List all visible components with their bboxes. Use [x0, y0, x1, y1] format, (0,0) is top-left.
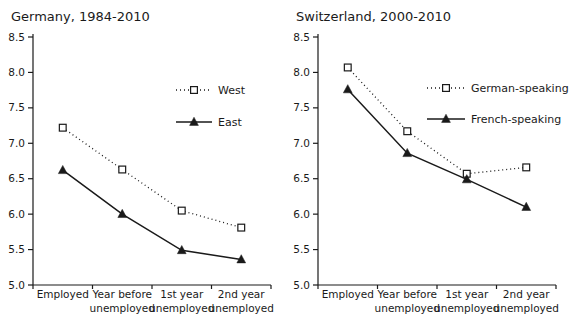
- x-category-label: unemployed: [375, 302, 440, 314]
- legend-marker-german-speaking: [443, 85, 450, 92]
- legend-label-west: West: [218, 84, 246, 97]
- y-tick-label: 6.5: [8, 172, 25, 184]
- x-category-label: 2nd year: [218, 288, 265, 300]
- legend-label-german-speaking: German-speaking: [471, 82, 569, 95]
- y-tick-label: 6.5: [293, 172, 310, 184]
- y-tick-label: 7.0: [293, 137, 310, 149]
- x-category-label: 2nd year: [503, 288, 550, 300]
- data-point-marker-west: [178, 207, 185, 214]
- x-category-label: Employed: [37, 288, 89, 300]
- panel-switzerland: 8.58.07.57.06.56.05.55.0EmployedYear bef…: [285, 0, 569, 329]
- data-point-marker-east: [118, 209, 127, 217]
- x-category-label: 1st year: [445, 288, 489, 300]
- data-point-marker-german-speaking: [344, 64, 351, 71]
- germany-plot: 8.58.07.57.06.56.05.55.0EmployedYear bef…: [0, 0, 284, 329]
- legend-label-french-speaking: French-speaking: [471, 113, 561, 126]
- y-tick-label: 7.5: [293, 101, 310, 113]
- data-point-marker-west: [119, 166, 126, 173]
- x-category-label: unemployed: [209, 302, 274, 314]
- y-tick-label: 6.0: [293, 208, 310, 220]
- legend-label-east: East: [218, 116, 242, 129]
- y-tick-label: 8.0: [293, 66, 310, 78]
- series-line-east: [63, 170, 242, 259]
- data-point-marker-east: [58, 165, 67, 173]
- panel-germany: 8.58.07.57.06.56.05.55.0EmployedYear bef…: [0, 0, 284, 329]
- y-tick-label: 8.5: [293, 31, 310, 43]
- x-category-label: unemployed: [494, 302, 559, 314]
- series-line-west: [63, 128, 242, 228]
- y-tick-label: 5.0: [293, 279, 310, 291]
- germany-title: Germany, 1984-2010: [11, 9, 150, 24]
- data-point-marker-german-speaking: [523, 164, 530, 171]
- switzerland-title: Switzerland, 2000-2010: [296, 9, 451, 24]
- data-point-marker-west: [59, 124, 66, 131]
- data-point-marker-french-speaking: [343, 85, 352, 93]
- x-category-label: unemployed: [434, 302, 499, 314]
- y-tick-label: 7.5: [8, 101, 25, 113]
- x-category-label: unemployed: [149, 302, 214, 314]
- x-category-label: Year before: [92, 288, 152, 300]
- switzerland-plot: 8.58.07.57.06.56.05.55.0EmployedYear bef…: [285, 0, 569, 329]
- data-point-marker-west: [238, 224, 245, 231]
- x-category-label: Employed: [322, 288, 374, 300]
- x-category-label: unemployed: [90, 302, 155, 314]
- y-tick-label: 5.5: [293, 243, 310, 255]
- y-tick-label: 5.5: [8, 243, 25, 255]
- data-point-marker-east: [177, 245, 186, 253]
- x-category-label: 1st year: [160, 288, 204, 300]
- y-tick-label: 8.0: [8, 66, 25, 78]
- series-line-french-speaking: [348, 89, 527, 207]
- x-category-label: Year before: [377, 288, 437, 300]
- legend-marker-west: [191, 87, 198, 94]
- y-tick-label: 5.0: [8, 279, 25, 291]
- figure: 8.58.07.57.06.56.05.55.0EmployedYear bef…: [0, 0, 569, 329]
- y-tick-label: 6.0: [8, 208, 25, 220]
- data-point-marker-german-speaking: [404, 128, 411, 135]
- y-tick-label: 7.0: [8, 137, 25, 149]
- y-tick-label: 8.5: [8, 31, 25, 43]
